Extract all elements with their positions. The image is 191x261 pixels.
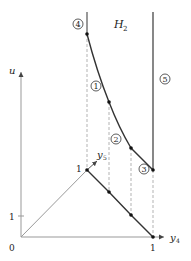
circled-label-1: 1	[91, 81, 101, 91]
y5-tick-label: 1	[76, 164, 82, 174]
y5-axis-label: y	[96, 149, 103, 160]
u-tick-label: 1	[9, 212, 15, 222]
svg-text:1: 1	[93, 82, 98, 91]
circled-label-5: 5	[160, 74, 170, 84]
svg-text:4: 4	[75, 20, 80, 29]
diagonal-edge-right	[87, 170, 153, 237]
circled-label-2: 2	[111, 134, 121, 144]
y5-axis-subscript: 5	[103, 154, 107, 161]
y4-tick-label: 1	[150, 243, 156, 253]
origin-label: 0	[9, 243, 15, 253]
diagonal-edge-left	[21, 170, 87, 237]
region-label-subscript: 2	[123, 25, 127, 33]
circled-label-3: 3	[139, 164, 149, 174]
y5-axis	[87, 161, 97, 170]
svg-text:5: 5	[162, 75, 167, 84]
u-axis-label: u	[9, 65, 15, 76]
diagram-canvas: 4 1 2 3 5 H 2 u 1 0 1 y 4 1 y 5	[0, 0, 191, 261]
svg-text:2: 2	[113, 135, 118, 144]
y4-axis-subscript: 4	[176, 237, 180, 244]
circled-label-4: 4	[73, 19, 83, 29]
y4-axis-label: y	[169, 232, 176, 243]
svg-text:3: 3	[141, 165, 146, 174]
